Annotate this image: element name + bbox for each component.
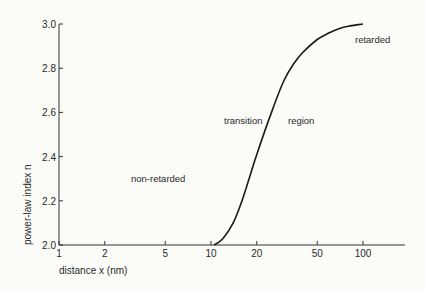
y-tick-label: 2.4: [42, 152, 56, 163]
x-tick-label: 2: [102, 248, 108, 259]
y-tick-label: 3.0: [42, 19, 56, 30]
y-tick-label: 2.2: [42, 196, 56, 207]
x-tick-label: 20: [251, 248, 263, 259]
axes: [59, 24, 405, 245]
chart: 2.02.22.42.62.83.0125102050100 distance …: [0, 0, 425, 290]
data-curve: [214, 24, 363, 245]
x-axis-label: distance x (nm): [59, 265, 127, 276]
y-tick-label: 2.6: [42, 107, 56, 118]
x-tick-label: 50: [312, 248, 324, 259]
annotation-transition: transition: [224, 115, 263, 126]
x-tick-label: 1: [56, 248, 62, 259]
y-tick-label: 2.8: [42, 63, 56, 74]
x-tick-label: 100: [355, 248, 372, 259]
x-tick-label: 10: [205, 248, 217, 259]
annotation-region: region: [288, 115, 314, 126]
y-axis-label: power-law index n: [22, 164, 33, 245]
annotation-non-retarded: non-retarded: [131, 173, 185, 184]
annotation-retarded: retarded: [355, 34, 390, 45]
x-tick-label: 5: [162, 248, 168, 259]
ticks: 2.02.22.42.62.83.0125102050100: [42, 19, 372, 259]
y-tick-label: 2.0: [42, 240, 56, 251]
